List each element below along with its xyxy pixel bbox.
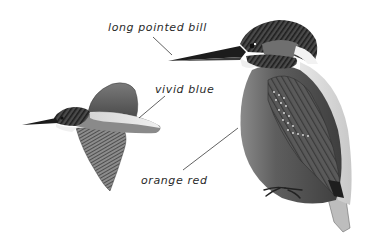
eye [250, 44, 255, 49]
leader-line-bill [153, 37, 172, 55]
label-vivid-blue: vivid blue [155, 83, 214, 97]
label-orange-red: orange red [141, 174, 207, 188]
label-long-pointed-bill: long pointed bill [108, 21, 207, 35]
leader-line-blue [139, 96, 165, 118]
leader-line-orange [183, 128, 238, 170]
kingfisher-in-flight [22, 83, 161, 191]
flying-eye [60, 116, 63, 119]
flying-bill [22, 118, 58, 125]
kingfisher-perched [168, 20, 352, 232]
eye-spot [254, 43, 256, 45]
illustration-canvas [0, 0, 374, 237]
lower-wing [76, 128, 126, 191]
kingfisher-diagram: long pointed bill vivid blue orange red [0, 0, 374, 237]
